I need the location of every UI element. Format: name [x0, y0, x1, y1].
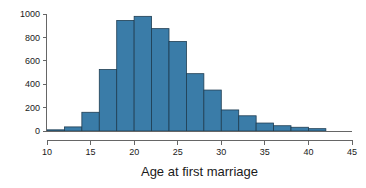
x-axis-title: Age at first marriage	[141, 164, 258, 179]
x-tick-label: 40	[303, 147, 313, 157]
histogram-bar	[204, 90, 221, 131]
x-tick-label: 30	[216, 147, 226, 157]
y-tick-label: 200	[25, 103, 40, 113]
histogram-bar	[274, 126, 291, 131]
histogram-bar	[308, 129, 325, 131]
x-axis-ticks: 1015202530354045	[42, 140, 357, 157]
histogram-bar	[47, 130, 64, 131]
histogram-bar	[64, 127, 81, 131]
histogram-bar	[117, 20, 134, 131]
x-tick-label: 45	[347, 147, 357, 157]
histogram-bar	[152, 29, 169, 131]
y-tick-label: 0	[35, 126, 40, 136]
x-tick-label: 15	[86, 147, 96, 157]
y-tick-label: 800	[25, 33, 40, 43]
histogram-bar	[82, 112, 99, 131]
histogram-bar	[186, 74, 203, 131]
histogram-figure: 020040060080010001015202530354045Age at …	[0, 0, 366, 188]
histogram-bar	[99, 70, 116, 131]
x-tick-label: 20	[129, 147, 139, 157]
y-tick-label: 1000	[20, 9, 40, 19]
x-tick-label: 35	[260, 147, 270, 157]
histogram-bar	[291, 127, 308, 131]
histogram-bar	[256, 123, 273, 131]
chart-canvas: 020040060080010001015202530354045Age at …	[0, 0, 366, 188]
histogram-bar	[221, 110, 238, 131]
y-tick-label: 600	[25, 56, 40, 66]
histogram-bar	[134, 16, 151, 131]
histogram-bar	[169, 42, 186, 132]
y-tick-label: 400	[25, 79, 40, 89]
histogram-bar	[239, 116, 256, 131]
bars-group	[47, 16, 326, 131]
y-axis-ticks: 02004006008001000	[20, 9, 47, 136]
x-tick-label: 25	[173, 147, 183, 157]
x-tick-label: 10	[42, 147, 52, 157]
